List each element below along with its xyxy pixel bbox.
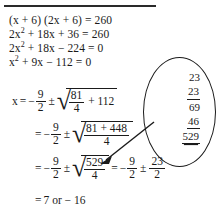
square-root-expression: √ 81 4 + 112 — [57, 88, 118, 115]
multiplicand: 23 — [189, 71, 200, 83]
minus-sign: − — [44, 128, 51, 140]
plus-minus-sign: ± — [49, 95, 55, 107]
radicand-denominator: 4 — [84, 170, 105, 182]
fraction-nine-halves: 9 2 — [51, 122, 61, 147]
partial-product-2: 46 — [187, 114, 200, 129]
minus-sign: − — [44, 162, 51, 174]
radical-icon: √ — [72, 125, 86, 143]
radicand: 81 4 + 112 — [66, 88, 118, 115]
multiplication-row: 23 — [160, 70, 204, 84]
fraction-nine-halves: 9 2 — [51, 156, 61, 181]
equation-2-exponent: 2 — [21, 26, 25, 35]
equals-sign: = — [35, 162, 42, 174]
product-total: 529 — [182, 129, 201, 144]
minus-sign: − — [28, 95, 35, 107]
equation-line-1: (x + 6) (2x + 6) = 260 — [9, 14, 112, 26]
partial-product-1: 69 — [189, 101, 200, 113]
fraction-denominator: 2 — [51, 135, 61, 147]
fraction-nine-halves: 9 2 — [36, 89, 46, 114]
fraction-eightyone-fourths: 81 4 — [69, 90, 85, 115]
multiplier: 23 — [187, 84, 200, 99]
equation-line-2: 2x2 + 18x + 36 = 260 — [9, 28, 109, 40]
top-divider-rule — [4, 5, 156, 7]
variable-x: x — [12, 95, 18, 107]
fraction-numerator: 9 — [51, 122, 61, 135]
equation-3-exponent: 2 — [21, 40, 25, 49]
equation-4-exponent: 2 — [15, 54, 19, 63]
fraction-denominator: 2 — [149, 169, 165, 181]
multiplication-row: 23 — [160, 84, 204, 99]
worksheet-page: (x + 6) (2x + 6) = 260 2x2 + 18x + 36 = … — [0, 0, 223, 218]
equation-3-rest: + 18x − 224 = 0 — [28, 42, 104, 54]
fraction-denominator: 2 — [51, 169, 61, 181]
equation-2-coefficient: 2x — [9, 28, 21, 40]
equation-3-coefficient: 2x — [9, 42, 21, 54]
multiplication-row: 69 — [160, 100, 204, 114]
equals-sign: = — [35, 128, 42, 140]
fraction-numerator: 9 — [51, 156, 61, 169]
equation-2-rest: + 18x + 36 = 260 — [28, 28, 109, 40]
multiplication-row: 529 — [160, 129, 204, 144]
multiplication-row: 46 — [160, 114, 204, 129]
plus-minus-sign: ± — [64, 128, 70, 140]
equation-1-text: (x + 6) (2x + 6) = 260 — [9, 14, 112, 26]
fraction-denominator: 2 — [127, 169, 137, 181]
equation-line-3: 2x2 + 18x − 224 = 0 — [9, 42, 103, 54]
equals-sign: = — [20, 95, 27, 107]
solution-line-1: x = − 9 2 ± √ 81 4 + 112 — [12, 88, 117, 115]
solution-line-4-roots: = 7 or − 16 — [33, 194, 85, 206]
radicand-numerator: 81 — [69, 90, 85, 103]
radical-icon: √ — [72, 159, 86, 177]
side-work-multiplication: 23 23 69 46 529 — [160, 70, 204, 144]
plus-minus-sign: ± — [64, 162, 70, 174]
radical-icon: √ — [57, 92, 71, 110]
radicand-addend: + 112 — [88, 95, 114, 107]
roots-text: 7 or − 16 — [44, 194, 86, 206]
leader-arrow-icon — [96, 120, 156, 168]
fraction-denominator: 2 — [36, 102, 46, 114]
equation-line-4: x2 + 9x − 112 = 0 — [9, 56, 91, 68]
equation-4-rest: + 9x − 112 = 0 — [22, 56, 91, 68]
equals-sign: = — [35, 194, 42, 206]
fraction-numerator: 9 — [36, 89, 46, 102]
radicand-denominator: 4 — [69, 103, 85, 115]
